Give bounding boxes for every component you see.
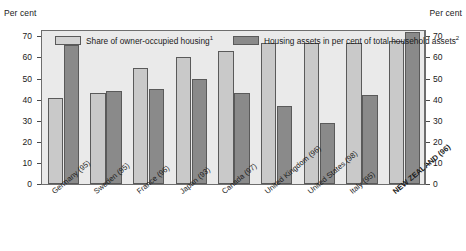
y-tick-right <box>426 100 430 101</box>
bar <box>218 51 234 184</box>
bar <box>405 32 421 184</box>
y-tick-label-left: 20 <box>8 138 32 147</box>
bar-chart: Per cent Per cent 0010102020303040405050… <box>0 0 466 251</box>
y-tick-right <box>426 57 430 58</box>
y-tick-label-right: 50 <box>433 75 457 84</box>
y-tick-label-left: 10 <box>8 159 32 168</box>
bar <box>90 93 106 184</box>
chart-legend: Share of owner-occupied housing1 Housing… <box>55 35 459 46</box>
plot-area <box>41 30 425 185</box>
y-tick-label-left: 0 <box>8 180 32 189</box>
bar <box>48 98 64 184</box>
y-tick-label-right: 0 <box>433 180 457 189</box>
y-tick-label-right: 40 <box>433 96 457 105</box>
y-tick-label-right: 30 <box>433 117 457 126</box>
unit-label-left: Per cent <box>4 8 36 18</box>
bar <box>389 41 405 184</box>
y-axis-left <box>41 30 42 185</box>
legend-label-series1: Share of owner-occupied housing1 <box>86 35 213 46</box>
legend-swatch-series2-icon <box>233 36 259 45</box>
bar <box>133 68 149 184</box>
unit-label-right: Per cent <box>430 8 462 18</box>
y-tick-label-right: 60 <box>433 53 457 62</box>
y-tick-label-left: 60 <box>8 53 32 62</box>
y-axis-right <box>425 30 426 185</box>
y-tick-right <box>426 142 430 143</box>
y-tick-label-left: 70 <box>8 32 32 41</box>
y-tick-label-left: 50 <box>8 75 32 84</box>
y-tick-right <box>426 184 430 185</box>
legend-swatch-series1-icon <box>55 36 81 45</box>
y-tick-label-left: 40 <box>8 96 32 105</box>
y-tick-right <box>426 79 430 80</box>
bars-layer <box>42 31 424 184</box>
legend-item-series1: Share of owner-occupied housing1 <box>55 35 213 46</box>
y-tick-right <box>426 121 430 122</box>
bar <box>64 45 80 184</box>
legend-label-series2: Housing assets in per cent of total hous… <box>264 35 459 46</box>
bar <box>261 43 277 184</box>
y-tick-label-left: 30 <box>8 117 32 126</box>
bar <box>176 57 192 184</box>
